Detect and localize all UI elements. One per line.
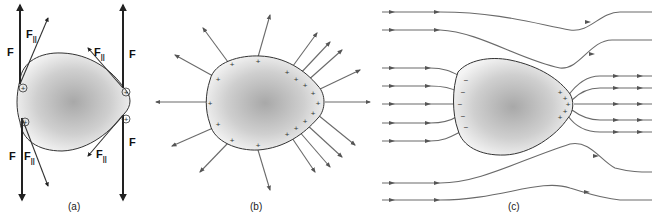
field-line (306, 50, 342, 82)
charge-sign: + (216, 75, 221, 84)
field-arrowhead (589, 52, 595, 56)
charge-sign: + (316, 99, 321, 108)
negative-charge: − (461, 88, 466, 97)
charge-sign: + (124, 115, 129, 124)
charge-sign: + (256, 57, 261, 66)
field-arrowhead (613, 118, 619, 122)
field-arrowhead (613, 102, 619, 106)
charge-sign: + (230, 60, 235, 69)
field-line (382, 68, 460, 76)
field-arrowhead (389, 28, 395, 32)
conductor-diagram: +FF||+FF||+FF||+FF|| (a) +++++++++++++++… (0, 0, 658, 217)
field-arrowhead (389, 181, 395, 185)
charge-sign: + (124, 88, 129, 97)
field-arrowhead (389, 102, 395, 106)
field-arrowhead (389, 84, 395, 88)
charge-sign: + (311, 109, 316, 118)
charge-sign: + (303, 81, 308, 90)
field-arrowhead (434, 181, 440, 185)
field-line (203, 28, 228, 62)
charge-sign: + (256, 141, 261, 150)
charge-sign: + (294, 124, 299, 133)
field-line (572, 110, 652, 120)
caption-b: (b) (250, 201, 262, 212)
field-arrowhead (637, 102, 643, 106)
positive-charge: + (558, 113, 563, 122)
field-line (382, 86, 458, 92)
field-arrowhead (585, 20, 591, 24)
negative-charge: − (464, 123, 469, 132)
conductor-b (206, 56, 324, 150)
label-F-parallel: F|| (26, 28, 37, 43)
field-line (572, 88, 652, 100)
panel-b: ++++++++++++++++ (b) (156, 15, 370, 212)
caption-a: (a) (68, 201, 80, 212)
negative-charge: − (461, 112, 466, 121)
field-arrowhead (434, 28, 440, 32)
negative-charge: − (458, 100, 463, 109)
field-line (175, 55, 213, 76)
field-arrowhead (425, 66, 431, 70)
field-line (382, 132, 460, 141)
panel-a: +FF||+FF||+FF||+FF|| (a) (7, 5, 136, 212)
label-F-parallel: F|| (24, 150, 35, 165)
label-F: F (7, 46, 14, 58)
field-line (200, 143, 228, 172)
field-line (172, 128, 213, 146)
conductor-a (17, 53, 130, 151)
field-line (290, 135, 315, 172)
field-line (318, 70, 360, 90)
field-arrowhead (637, 130, 643, 134)
label-F-parallel: F|| (94, 46, 105, 61)
field-line (290, 33, 317, 70)
charge-sign: + (21, 84, 26, 93)
field-line (382, 185, 652, 200)
field-arrowhead (434, 10, 440, 14)
field-line (258, 15, 270, 57)
field-arrowhead (389, 10, 395, 14)
charge-sign: + (23, 118, 28, 127)
charge-sign: + (230, 136, 235, 145)
charge-sign: + (285, 68, 290, 77)
field-arrowhead (425, 121, 431, 125)
field-arrowhead (389, 139, 395, 143)
field-arrowhead (613, 74, 619, 78)
field-arrowhead (637, 74, 643, 78)
field-line (382, 116, 458, 123)
field-line (382, 12, 652, 30)
charge-sign: + (208, 99, 213, 108)
field-arrowhead (425, 84, 431, 88)
conductor-c (454, 59, 573, 156)
label-F: F (129, 48, 136, 60)
field-arrowhead (434, 198, 440, 202)
field-arrowhead (389, 121, 395, 125)
label-F: F (129, 136, 136, 148)
field-line (298, 130, 330, 167)
label-F: F (9, 150, 16, 162)
charge-sign: + (311, 89, 316, 98)
field-arrowhead (637, 118, 643, 122)
field-arrowhead (637, 86, 643, 90)
positive-charge: + (563, 107, 568, 116)
field-arrowhead (613, 86, 619, 90)
negative-charge: − (464, 76, 469, 85)
charge-sign: + (303, 117, 308, 126)
field-arrowhead (389, 66, 395, 70)
field-arrowhead (425, 102, 431, 106)
charge-sign: + (294, 75, 299, 84)
field-arrowhead (425, 139, 431, 143)
panel-c: −−−−−+++++ (c) (382, 10, 652, 212)
field-line (568, 116, 652, 132)
field-line (306, 124, 342, 157)
field-line (258, 150, 270, 190)
label-F-parallel: F|| (96, 148, 107, 163)
charge-sign: + (285, 130, 290, 139)
field-arrowhead (613, 130, 619, 134)
charge-sign: + (216, 120, 221, 129)
field-arrowhead (389, 198, 395, 202)
caption-c: (c) (508, 201, 520, 212)
